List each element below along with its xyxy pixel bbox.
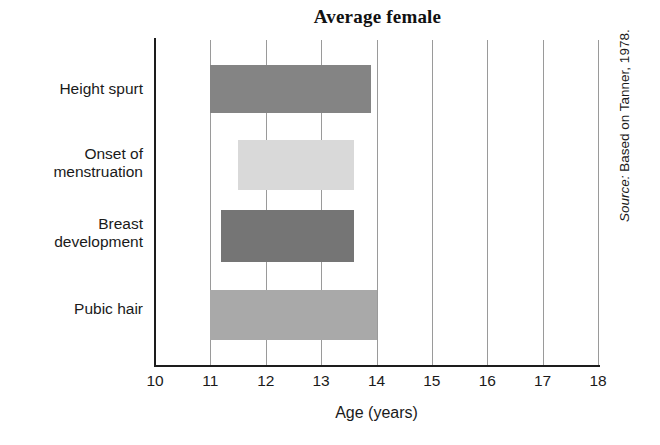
category-label-pubic-hair: Pubic hair (0, 300, 143, 318)
x-tick-label-12: 12 (246, 372, 286, 390)
category-label-breast-development: Breastdevelopment (0, 215, 143, 252)
x-tick-label-15: 15 (412, 372, 452, 390)
chart-title: Average female (155, 6, 600, 28)
gridline-15 (432, 40, 433, 365)
x-tick-label-18: 18 (578, 372, 618, 390)
x-axis-line (154, 365, 600, 367)
source-prefix: Source: (617, 175, 632, 222)
category-label-onset-of-menstruation: Onset ofmenstruation (0, 145, 143, 182)
x-axis-title: Age (years) (155, 404, 598, 422)
x-tick-label-11: 11 (190, 372, 230, 390)
category-label-height-spurt: Height spurt (0, 80, 143, 98)
category-label-line: Onset of (0, 145, 143, 163)
gridline-18 (598, 40, 599, 365)
bar-pubic-hair (210, 290, 376, 340)
gridline-16 (487, 40, 488, 365)
chart-figure: Average female Height spurtOnset ofmenst… (0, 0, 660, 445)
bar-onset-of-menstruation (238, 140, 354, 190)
source-text: Based on Tanner, 1978. (617, 29, 632, 175)
gridline-14 (377, 40, 378, 365)
gridline-17 (543, 40, 544, 365)
category-label-line: Pubic hair (0, 300, 143, 318)
x-tick-label-10: 10 (135, 372, 175, 390)
x-tick-label-16: 16 (467, 372, 507, 390)
category-label-line: Height spurt (0, 80, 143, 98)
x-tick-label-17: 17 (523, 372, 563, 390)
bar-breast-development (221, 210, 354, 262)
category-label-line: menstruation (0, 163, 143, 181)
x-tick-label-13: 13 (301, 372, 341, 390)
x-tick-label-14: 14 (357, 372, 397, 390)
bar-height-spurt (210, 65, 371, 113)
category-label-line: development (0, 233, 143, 251)
category-label-line: Breast (0, 215, 143, 233)
plot-area (155, 40, 598, 365)
source-credit: Source: Based on Tanner, 1978. (617, 22, 632, 222)
